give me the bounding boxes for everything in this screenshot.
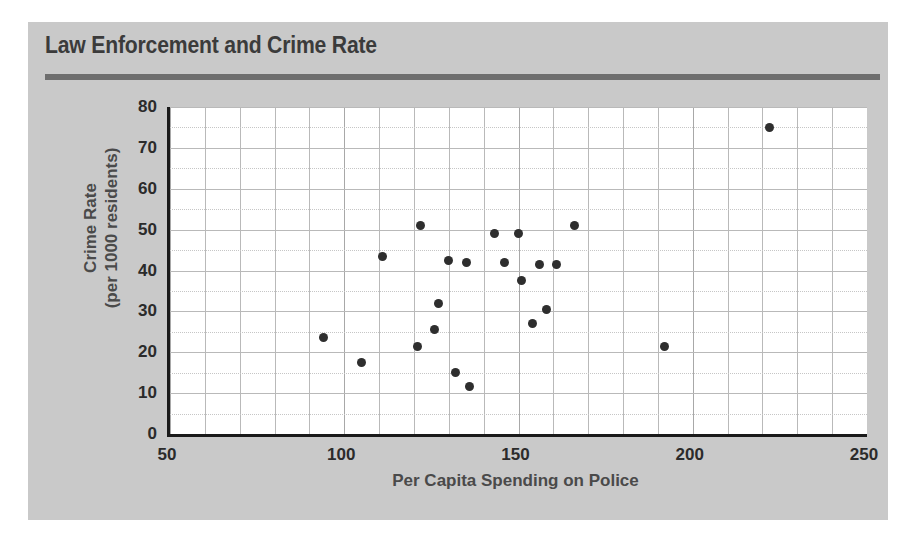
gridline-horizontal — [170, 414, 867, 415]
gridline-horizontal — [170, 393, 867, 394]
data-point — [490, 229, 499, 238]
x-tick-label: 250 — [834, 445, 894, 465]
gridline-horizontal — [170, 168, 867, 169]
gridline-horizontal — [170, 332, 867, 333]
data-point — [462, 258, 471, 267]
y-tick-label: 0 — [111, 424, 157, 444]
gridline-horizontal — [170, 271, 867, 272]
data-point — [378, 252, 387, 261]
data-point — [570, 221, 579, 230]
y-tick-label: 30 — [111, 301, 157, 321]
data-point — [528, 319, 537, 328]
x-tick-label: 50 — [137, 445, 197, 465]
gridline-horizontal — [170, 373, 867, 374]
y-tick-label: 20 — [111, 342, 157, 362]
y-tick-label: 40 — [111, 261, 157, 281]
x-axis-label: Per Capita Spending on Police — [167, 471, 864, 491]
gridline-horizontal — [170, 148, 867, 149]
data-point — [660, 342, 669, 351]
x-tick-label: 150 — [486, 445, 546, 465]
x-tick-label: 100 — [311, 445, 371, 465]
gridline-horizontal — [170, 189, 867, 190]
y-tick-label: 70 — [111, 138, 157, 158]
gridline-horizontal — [170, 127, 867, 128]
gridline-horizontal — [170, 291, 867, 292]
data-point — [535, 260, 544, 269]
title-divider — [45, 74, 880, 80]
x-tick-label: 200 — [660, 445, 720, 465]
data-point — [765, 123, 774, 132]
gridline-horizontal — [170, 107, 867, 108]
plot-area — [167, 107, 867, 437]
data-point — [500, 258, 509, 267]
chart-panel: Law Enforcement and Crime Rate Crime Rat… — [28, 22, 888, 520]
grid-layer — [170, 107, 867, 434]
y-tick-label: 60 — [111, 179, 157, 199]
y-tick-label: 80 — [111, 97, 157, 117]
y-tick-label: 10 — [111, 383, 157, 403]
data-point — [434, 299, 443, 308]
gridline-horizontal — [170, 250, 867, 251]
data-point — [413, 342, 422, 351]
figure-canvas: Law Enforcement and Crime Rate Crime Rat… — [0, 0, 915, 545]
data-point — [542, 305, 551, 314]
gridline-horizontal — [170, 311, 867, 312]
chart-title: Law Enforcement and Crime Rate — [45, 32, 377, 59]
gridline-horizontal — [170, 209, 867, 210]
gridline-horizontal — [170, 352, 867, 353]
y-tick-label: 50 — [111, 220, 157, 240]
